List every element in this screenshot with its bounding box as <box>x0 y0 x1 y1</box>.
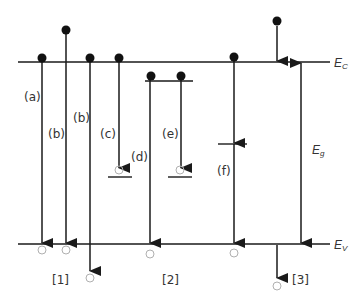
ec-label: EC <box>334 56 348 71</box>
label-e: (e) <box>162 127 179 141</box>
electron <box>62 26 71 35</box>
group-label-2: [2] <box>162 273 179 287</box>
label-f: (f) <box>217 164 231 178</box>
label-b1: (b) <box>48 127 65 141</box>
label-b2: (b) <box>73 111 90 125</box>
hole <box>62 246 70 254</box>
label-d: (d) <box>131 150 148 164</box>
electron <box>177 72 186 81</box>
eg-label: Eg <box>312 143 325 158</box>
electron <box>230 53 239 62</box>
hole <box>86 274 94 282</box>
electron <box>86 54 95 63</box>
electron <box>273 17 282 26</box>
hole <box>230 249 238 257</box>
electron <box>115 54 124 63</box>
label-a: (a) <box>24 90 41 104</box>
electron <box>38 54 47 63</box>
group-label-3: [3] <box>292 273 309 287</box>
ev-label: EV <box>334 238 348 253</box>
group-label-1: [1] <box>52 273 69 287</box>
electron <box>147 72 156 81</box>
hole <box>176 166 184 174</box>
label-c: (c) <box>100 127 116 141</box>
band-diagram: (a) (b) (b) (c) (d) (e) (f) [1] [2] [3] … <box>0 0 360 304</box>
hole <box>273 282 281 290</box>
hole <box>146 250 154 258</box>
hole <box>38 246 46 254</box>
